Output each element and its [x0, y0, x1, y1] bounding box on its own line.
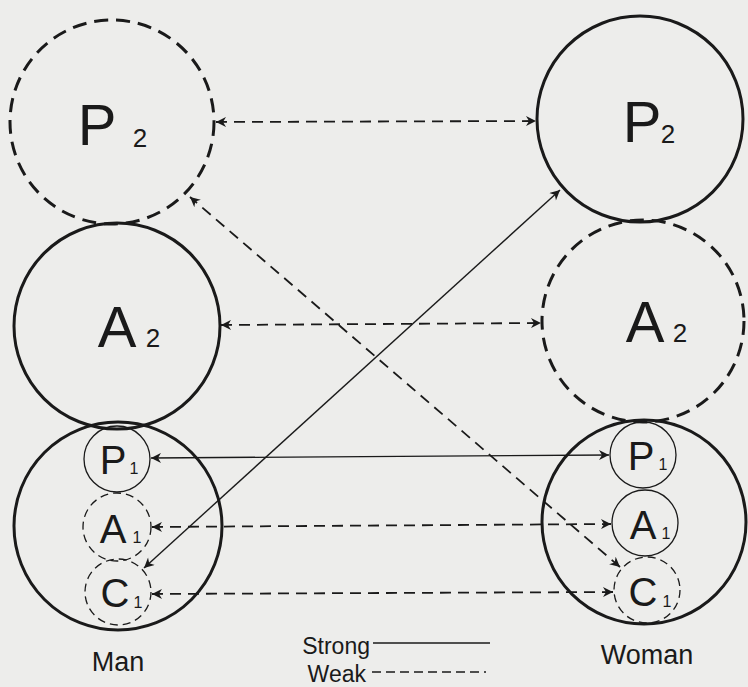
- svg-text:C: C: [629, 570, 658, 614]
- ego-state-diagram: P 2 A 2 P 1 A 1 C 1 Man P 2: [0, 0, 748, 687]
- legend: Strong Weak: [302, 633, 490, 687]
- svg-text:1: 1: [133, 529, 142, 546]
- svg-text:P: P: [100, 438, 127, 482]
- svg-text:C: C: [101, 571, 130, 615]
- svg-text:2: 2: [661, 119, 675, 149]
- arrow-p2-p2-weak: [216, 121, 536, 122]
- man-a2-label: A 2: [98, 294, 161, 359]
- man-p1-label: P 1: [100, 438, 139, 482]
- svg-text:P: P: [628, 434, 655, 478]
- svg-text:A: A: [626, 289, 665, 354]
- legend-strong-label: Strong: [302, 633, 370, 659]
- svg-text:2: 2: [146, 323, 160, 353]
- svg-text:A: A: [630, 503, 657, 547]
- svg-text:2: 2: [133, 123, 147, 153]
- svg-text:P: P: [623, 89, 662, 154]
- arrow-a2-a2-weak: [221, 323, 541, 325]
- arrow-p1-p1-strong: [151, 455, 609, 458]
- woman-label: Woman: [601, 640, 694, 670]
- man-label: Man: [92, 647, 145, 677]
- arrow-c1-c1-weak: [152, 592, 613, 594]
- woman-a2-label: A 2: [626, 289, 688, 354]
- woman-ego-states: P 2 A 2 P 1 A 1 C 1 Woman: [537, 16, 746, 670]
- svg-text:1: 1: [130, 460, 139, 477]
- svg-text:1: 1: [663, 593, 672, 610]
- svg-text:1: 1: [659, 456, 668, 473]
- svg-text:2: 2: [673, 318, 687, 348]
- svg-text:1: 1: [662, 525, 671, 542]
- woman-c1-label: C 1: [629, 570, 672, 614]
- svg-text:A: A: [100, 507, 127, 551]
- arrow-woman-c1-man-p2-weak: [190, 197, 620, 567]
- woman-a1-label: A 1: [630, 503, 671, 547]
- svg-text:P: P: [78, 92, 117, 157]
- man-p2-label: P 2: [78, 92, 148, 157]
- man-c1-label: C 1: [101, 571, 143, 615]
- man-ego-states: P 2 A 2 P 1 A 1 C 1 Man: [10, 20, 222, 677]
- woman-p1-label: P 1: [628, 434, 668, 478]
- woman-p2-label: P 2: [623, 89, 676, 154]
- svg-text:A: A: [98, 294, 137, 359]
- legend-weak-label: Weak: [308, 661, 367, 687]
- svg-text:1: 1: [134, 594, 143, 611]
- man-a1-label: A 1: [100, 507, 142, 551]
